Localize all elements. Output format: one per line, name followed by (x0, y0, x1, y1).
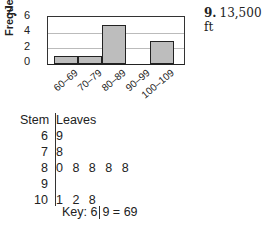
y-tick: 0 (20, 55, 30, 67)
histogram-bar (54, 56, 78, 64)
stem-value: 6 (20, 128, 48, 144)
key-prefix: Key: 6 (62, 205, 97, 219)
histogram-bar (150, 41, 174, 65)
leaves-value: 0 8 8 8 8 (56, 160, 129, 176)
problem-9: 9.13,500 ft (204, 6, 267, 34)
x-tick-label: 70–79 (76, 67, 104, 93)
x-tick-label: 80–89 (100, 67, 128, 93)
stem-value: 8 (20, 160, 48, 176)
x-tick-label: 60–69 (52, 67, 80, 93)
histogram-plot-area (47, 16, 185, 65)
stem-value: 9 (20, 176, 48, 192)
leaves-value: 9 (56, 128, 63, 144)
histogram-bar (78, 56, 102, 64)
histogram-y-axis-label: Frequency (3, 0, 15, 36)
problem-9-number: 9. (204, 6, 217, 20)
key-divider (99, 206, 100, 219)
leaves-header: Leaves (56, 112, 96, 128)
y-tick: 2 (20, 40, 30, 52)
stem-header: Stem (20, 112, 48, 128)
stem-value: 7 (20, 144, 48, 160)
y-tick: 6 (20, 9, 30, 21)
stem-value: 10 (20, 192, 48, 208)
leaves-value: 8 (56, 144, 63, 160)
key-suffix: 9 = 69 (102, 205, 137, 219)
stem-leaf-divider (55, 113, 56, 206)
y-tick: 4 (20, 24, 30, 36)
histogram-bar (102, 25, 126, 64)
stem-leaf-key: Key: 69 = 69 (62, 205, 138, 219)
